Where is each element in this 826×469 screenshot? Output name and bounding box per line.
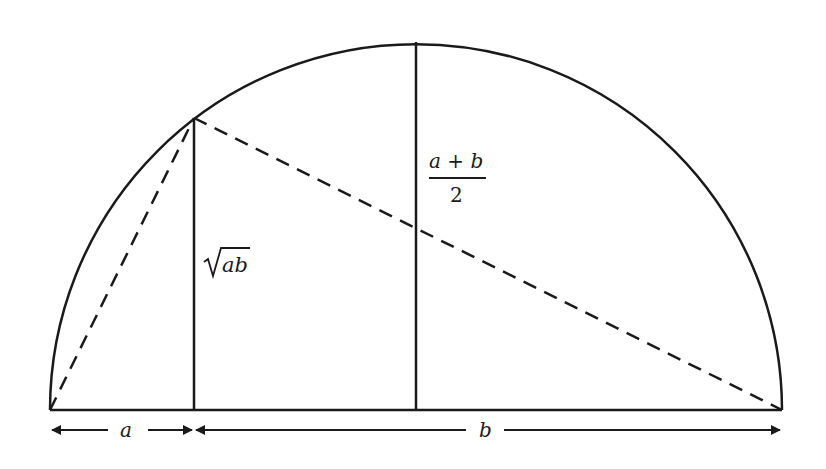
- dashed-chord-right: [194, 118, 782, 410]
- arithmetic-mean-label: a + b 2: [429, 149, 486, 207]
- numerator-text: a + b: [429, 149, 483, 173]
- segment-b-label: b: [479, 418, 492, 442]
- denominator-text: 2: [450, 183, 463, 207]
- segment-a-label: a: [120, 418, 132, 442]
- geometric-mean-label: ab: [204, 248, 250, 277]
- dashed-chord-left: [50, 118, 194, 410]
- radicand-text: ab: [222, 253, 248, 277]
- semicircle-diagram: ab a + b 2 a b: [0, 0, 826, 469]
